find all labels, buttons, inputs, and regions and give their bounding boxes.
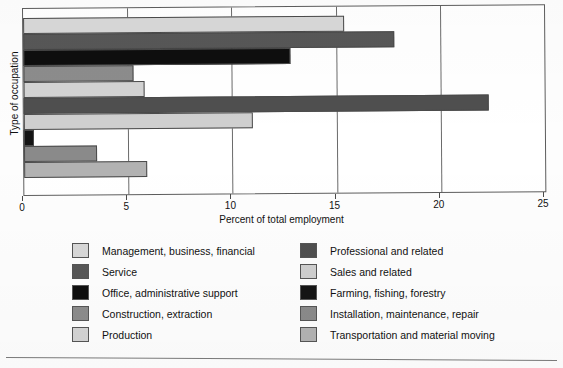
tick-label-25: 25 — [528, 198, 558, 209]
bar[interactable] — [24, 130, 35, 146]
tick-label-10: 10 — [215, 200, 245, 211]
legend-item[interactable]: Professional and related — [300, 240, 550, 261]
legend-swatch-icon — [300, 243, 317, 258]
chart-legend: Management, business, financialServiceOf… — [0, 240, 563, 350]
legend-item-label: Office, administrative support — [102, 287, 238, 299]
chart-figure: Type of occupation 0510152025 Percent of… — [0, 0, 563, 368]
bar[interactable] — [24, 112, 253, 130]
legend-item-label: Production — [102, 329, 152, 341]
legend-item[interactable]: Construction, extraction — [72, 303, 302, 324]
legend-swatch-icon — [72, 243, 89, 258]
legend-item-label: Sales and related — [330, 266, 412, 278]
legend-item-label: Construction, extraction — [102, 308, 212, 320]
legend-swatch-icon — [300, 327, 317, 342]
legend-item[interactable]: Production — [72, 324, 302, 345]
tick-mark-25 — [543, 192, 544, 197]
legend-swatch-icon — [72, 327, 89, 342]
legend-item-label: Farming, fishing, forestry — [330, 287, 446, 299]
x-axis-title: Percent of total employment — [0, 214, 563, 225]
legend-column-left: Management, business, financialServiceOf… — [72, 240, 302, 345]
legend-swatch-icon — [72, 285, 89, 300]
bar-row — [24, 158, 545, 178]
legend-swatch-icon — [300, 306, 317, 321]
tick-mark-10 — [230, 194, 231, 199]
legend-item[interactable]: Office, administrative support — [72, 282, 302, 303]
legend-swatch-icon — [300, 285, 317, 300]
legend-swatch-icon — [72, 306, 89, 321]
tick-mark-0 — [22, 196, 23, 201]
y-axis-title: Type of occupation — [9, 34, 20, 154]
tick-label-0: 0 — [7, 202, 37, 213]
bar[interactable] — [24, 81, 145, 98]
legend-swatch-icon — [300, 264, 317, 279]
footer-divider — [6, 357, 557, 361]
legend-column-right: Professional and relatedSales and relate… — [300, 240, 550, 345]
plot-area: Type of occupation 0510152025 Percent of… — [0, 0, 563, 232]
legend-item-label: Service — [102, 266, 137, 278]
legend-item[interactable]: Sales and related — [300, 261, 550, 282]
tick-label-20: 20 — [424, 199, 454, 210]
bar[interactable] — [24, 145, 97, 162]
bar-series — [23, 14, 545, 178]
legend-item[interactable]: Transportation and material moving — [300, 324, 550, 345]
tick-mark-20 — [439, 193, 440, 198]
legend-item-label: Management, business, financial — [102, 245, 255, 257]
legend-item-label: Professional and related — [330, 245, 443, 257]
legend-item-label: Transportation and material moving — [330, 329, 495, 341]
legend-item[interactable]: Installation, maintenance, repair — [300, 303, 550, 324]
tick-mark-15 — [335, 194, 336, 199]
bar[interactable] — [23, 48, 290, 66]
plot-frame — [22, 4, 546, 196]
legend-item[interactable]: Service — [72, 261, 302, 282]
legend-swatch-icon — [72, 264, 89, 279]
bar[interactable] — [24, 161, 147, 178]
gridlines — [23, 5, 544, 9]
tick-label-5: 5 — [111, 201, 141, 212]
tick-mark-5 — [126, 195, 127, 200]
tick-label-15: 15 — [320, 200, 350, 211]
bar[interactable] — [23, 65, 134, 82]
legend-item[interactable]: Farming, fishing, forestry — [300, 282, 550, 303]
legend-item-label: Installation, maintenance, repair — [330, 308, 479, 320]
legend-item[interactable]: Management, business, financial — [72, 240, 302, 261]
